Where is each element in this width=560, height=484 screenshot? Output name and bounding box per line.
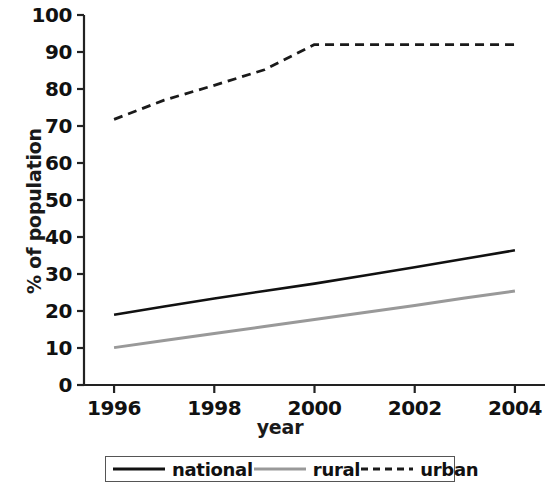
y-tick-label: 90 <box>45 40 72 64</box>
legend-label-urban: urban <box>420 459 478 480</box>
line-chart-figure: 0102030405060708090100199619982000200220… <box>0 0 560 484</box>
series-line-rural <box>114 291 515 348</box>
series-line-urban <box>114 45 515 120</box>
legend-label-rural: rural <box>313 459 360 480</box>
chart-legend: national rural urban <box>105 456 455 482</box>
solid-black-line-swatch <box>112 463 166 475</box>
y-tick-label: 70 <box>45 114 72 138</box>
y-tick-label: 10 <box>45 336 72 360</box>
y-tick-label: 40 <box>45 225 72 249</box>
x-axis-title: year <box>0 416 560 438</box>
y-tick-label: 100 <box>31 3 72 27</box>
legend-item-national: national <box>112 459 253 480</box>
plot-area: 0102030405060708090100199619982000200220… <box>0 0 560 440</box>
y-tick-label: 30 <box>45 262 72 286</box>
legend-label-national: national <box>172 459 253 480</box>
y-tick-label: 80 <box>45 77 72 101</box>
y-tick-label: 0 <box>58 373 72 397</box>
y-tick-label: 20 <box>45 299 72 323</box>
y-axis-title: % of population <box>23 101 45 321</box>
legend-item-rural: rural <box>253 459 360 480</box>
series-line-national <box>114 250 515 314</box>
solid-gray-line-swatch <box>253 463 307 475</box>
dashed-black-line-swatch <box>360 463 414 475</box>
chart-canvas: 0102030405060708090100199619982000200220… <box>0 0 560 440</box>
legend-item-urban: urban <box>360 459 478 480</box>
y-tick-label: 50 <box>45 188 72 212</box>
y-tick-label: 60 <box>45 151 72 175</box>
